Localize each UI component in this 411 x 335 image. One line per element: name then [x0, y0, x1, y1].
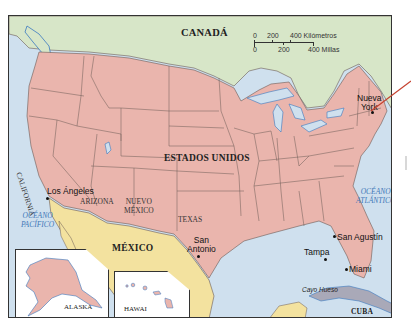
pointer-line — [0, 0, 411, 335]
page-edge-mark — [405, 156, 407, 170]
